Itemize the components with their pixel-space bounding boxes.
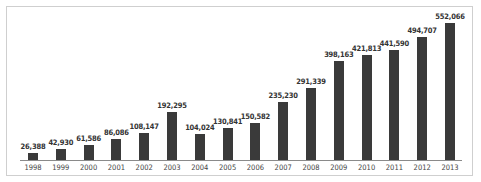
bar-1998 (28, 153, 38, 160)
bar-2001 (111, 139, 121, 160)
bar-2009 (334, 61, 344, 160)
x-tick-label: 2013 (430, 163, 470, 172)
bar-2010 (362, 55, 372, 160)
value-label: 150,582 (230, 112, 280, 121)
value-label: 441,590 (369, 39, 419, 48)
bar-2005 (223, 128, 233, 160)
bar-2000 (84, 145, 94, 160)
x-axis-line (20, 160, 462, 161)
bar-2004 (195, 134, 205, 160)
bar-2013 (445, 23, 455, 160)
bar-1999 (56, 149, 66, 160)
bar-2007 (278, 102, 288, 160)
bar-2011 (389, 50, 399, 160)
value-label: 192,295 (147, 101, 197, 110)
value-label: 494,707 (397, 26, 447, 35)
bar-2008 (306, 88, 316, 160)
bar-2003 (167, 112, 177, 160)
value-label: 291,339 (286, 77, 336, 86)
value-label: 552,066 (425, 12, 475, 21)
bar-2002 (139, 133, 149, 160)
bar-2006 (250, 123, 260, 160)
bar-2012 (417, 37, 427, 160)
value-label: 108,147 (119, 122, 169, 131)
value-label: 235,230 (258, 91, 308, 100)
